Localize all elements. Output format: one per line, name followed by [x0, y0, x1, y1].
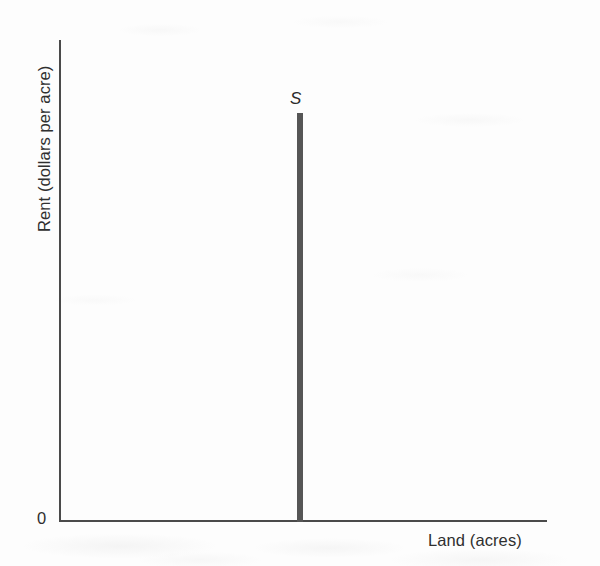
supply-of-land-figure: Rent (dollars per acre) Land (acres) 0 S — [0, 0, 600, 566]
x-axis-label: Land (acres) — [428, 531, 522, 550]
x-axis-line — [59, 520, 547, 522]
supply-curve-line — [297, 113, 303, 522]
y-axis-label: Rent (dollars per acre) — [33, 32, 55, 232]
y-axis-line — [59, 40, 61, 522]
supply-curve-label: S — [290, 89, 301, 109]
origin-label: 0 — [37, 509, 46, 528]
